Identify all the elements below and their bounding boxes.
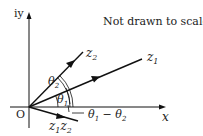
x-axis-arrow-icon (159, 105, 166, 110)
y-axis-label: iy (14, 7, 25, 20)
z1-arrow-icon (91, 76, 100, 83)
y-axis-arrow-icon (27, 12, 32, 19)
diff-angle-tick (68, 105, 69, 112)
theta-difference-label: θ1 − θ2 (88, 108, 127, 123)
origin-label: O (16, 108, 25, 121)
z1-vector (29, 59, 142, 107)
complex-plane-diagram: iy O x Not drawn to scale z1 z2 z1z2 θ2 … (0, 0, 203, 136)
theta1-label: θ1 (57, 93, 68, 108)
z1-label: z1 (146, 50, 158, 66)
z2-vector (29, 52, 83, 107)
z2-label: z2 (85, 46, 97, 62)
x-axis-label: x (162, 110, 169, 124)
z1z2-label: z1z2 (48, 119, 72, 135)
z2-arrow-icon (66, 60, 75, 68)
scale-note: Not drawn to scale (103, 15, 203, 28)
